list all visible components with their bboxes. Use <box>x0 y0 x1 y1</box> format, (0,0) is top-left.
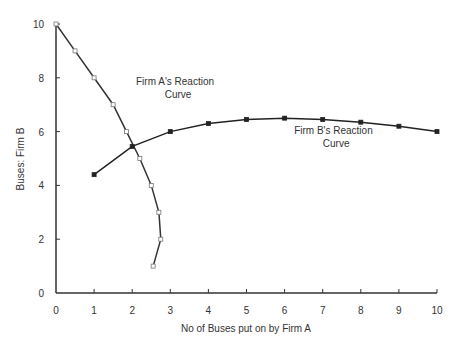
x-tick-label: 4 <box>206 305 212 316</box>
y-tick-label: 10 <box>33 19 45 30</box>
data-point-marker <box>73 49 77 53</box>
data-point-marker <box>111 103 115 107</box>
x-tick-label: 5 <box>244 305 250 316</box>
curve-annotation: Firm B's Reaction <box>294 125 373 136</box>
x-tick-label: 1 <box>91 305 97 316</box>
y-tick-label: 0 <box>38 288 44 299</box>
y-axis-title: Buses: Firm B <box>15 127 26 190</box>
data-point-marker <box>92 173 96 177</box>
data-point-marker <box>283 116 287 120</box>
data-point-marker <box>435 130 439 134</box>
x-axis-title: No of Buses put on by Firm A <box>181 323 311 334</box>
data-point-marker <box>54 22 58 26</box>
x-tick-label: 10 <box>431 305 443 316</box>
series-layer <box>54 22 439 268</box>
x-tick-label: 3 <box>168 305 174 316</box>
data-point-marker <box>149 183 153 187</box>
series-line <box>56 24 161 266</box>
y-tick-label: 4 <box>38 180 44 191</box>
annotations: Firm A's ReactionCurveFirm B's ReactionC… <box>136 76 373 150</box>
data-point-marker <box>151 264 155 268</box>
data-point-marker <box>245 117 249 121</box>
data-point-marker <box>124 130 128 134</box>
series-firm-a <box>54 22 163 268</box>
x-tick-label: 2 <box>129 305 135 316</box>
curve-annotation: Firm A's Reaction <box>136 76 214 87</box>
reaction-curves-chart: 0123456789100246810 Firm A's ReactionCur… <box>0 0 465 350</box>
data-point-marker <box>159 237 163 241</box>
data-point-marker <box>359 120 363 124</box>
data-point-marker <box>92 76 96 80</box>
x-tick-label: 6 <box>282 305 288 316</box>
x-tick-label: 7 <box>320 305 326 316</box>
y-tick-label: 2 <box>38 234 44 245</box>
x-tick-label: 0 <box>53 305 59 316</box>
data-point-marker <box>397 124 401 128</box>
data-point-marker <box>168 130 172 134</box>
data-point-marker <box>321 117 325 121</box>
curve-annotation: Curve <box>165 89 192 100</box>
y-tick-label: 6 <box>38 127 44 138</box>
curve-annotation: Curve <box>323 138 350 149</box>
data-point-marker <box>157 210 161 214</box>
data-point-marker <box>206 122 210 126</box>
data-point-marker <box>130 144 134 148</box>
x-tick-label: 9 <box>396 305 402 316</box>
x-tick-label: 8 <box>358 305 364 316</box>
data-point-marker <box>138 157 142 161</box>
axes: 0123456789100246810 <box>33 19 443 316</box>
y-tick-label: 8 <box>38 73 44 84</box>
series-line <box>94 118 437 174</box>
